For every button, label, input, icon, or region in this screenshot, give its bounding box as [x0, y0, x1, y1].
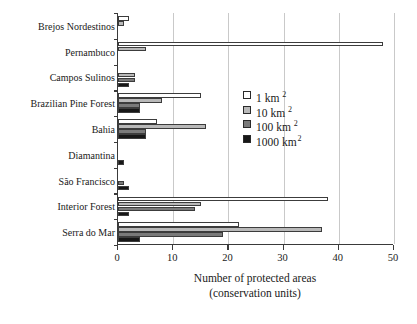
bar-slot: [118, 181, 393, 186]
bar-slot: [118, 150, 393, 155]
y-axis-tick: [114, 65, 118, 66]
bar: [118, 108, 140, 113]
bar-slot: [118, 212, 393, 217]
bar: [118, 134, 146, 139]
bar-slot: [118, 52, 393, 57]
x-axis-title-line1: Number of protected areas: [117, 271, 393, 286]
bar-slot: [118, 31, 393, 36]
bar: [118, 160, 124, 165]
bar-slot: [118, 57, 393, 62]
x-axis-tick-label: 40: [333, 252, 344, 264]
y-axis-label: Bahia: [92, 124, 115, 135]
bar-group: [118, 16, 393, 36]
bar: [118, 237, 140, 242]
bar: [118, 93, 201, 98]
x-axis-tick-label: 0: [114, 252, 119, 264]
bar-group: [118, 68, 393, 88]
bar: [118, 212, 129, 217]
y-axis-tick: [114, 168, 118, 169]
bar-slot: [118, 232, 393, 237]
y-axis-tick: [114, 219, 118, 220]
bar: [118, 21, 124, 26]
bar: [118, 232, 223, 237]
bar: [118, 124, 206, 129]
y-axis-label: Brejos Nordestinos: [38, 20, 115, 31]
y-axis-label: Diamantina: [68, 149, 115, 160]
x-axis-tick-label: 30: [277, 252, 288, 264]
x-axis-tick-label: 20: [222, 252, 233, 264]
y-axis-tick: [114, 193, 118, 194]
legend-label: 1000 km2: [256, 132, 302, 149]
y-axis-label: São Francisco: [59, 175, 115, 186]
bar-slot: [118, 237, 393, 242]
x-axis-tick: [227, 245, 228, 250]
bar: [118, 83, 129, 88]
y-axis-label: Serra do Mar: [62, 227, 115, 238]
bar-slot: [118, 202, 393, 207]
y-axis-tick: [114, 142, 118, 143]
bar-group: [118, 42, 393, 62]
x-axis-tick: [172, 245, 173, 250]
bar: [118, 98, 162, 103]
bar: [118, 16, 129, 21]
y-axis-label: Campos Sulinos: [50, 72, 115, 83]
bar: [118, 78, 135, 83]
x-axis-title-line2: (conservation units): [117, 286, 393, 301]
bar: [118, 222, 239, 227]
y-axis-tick: [114, 90, 118, 91]
bar: [118, 42, 383, 47]
legend-swatch: [243, 91, 251, 99]
bar: [118, 202, 201, 207]
y-axis-tick: [114, 116, 118, 117]
legend-swatch: [243, 135, 251, 143]
bar-slot: [118, 197, 393, 202]
bar: [118, 103, 140, 108]
x-axis-tick-label: 10: [167, 252, 178, 264]
bar: [118, 73, 135, 78]
bar: [118, 207, 195, 212]
legend-swatch: [243, 106, 251, 114]
bar-slot: [118, 160, 393, 165]
bar-slot: [118, 47, 393, 52]
bar-slot: [118, 207, 393, 212]
bar-slot: [118, 42, 393, 47]
bar-group: [118, 222, 393, 242]
bar-slot: [118, 176, 393, 181]
bar-slot: [118, 83, 393, 88]
bar-slot: [118, 186, 393, 191]
bar: [118, 119, 157, 124]
legend-item: 100 km2: [243, 117, 358, 132]
bar-chart-figure: Brejos NordestinosPernambucoCampos Sulin…: [0, 0, 417, 324]
x-axis-tick: [338, 245, 339, 250]
bar: [118, 197, 328, 202]
bar-slot: [118, 155, 393, 160]
x-axis: 01020304050: [117, 245, 393, 267]
bar-slot: [118, 222, 393, 227]
legend-swatch: [243, 120, 251, 128]
bar: [118, 181, 124, 186]
bar-slot: [118, 26, 393, 31]
bar-slot: [118, 73, 393, 78]
x-axis-tick: [393, 245, 394, 250]
x-axis-title: Number of protected areas (conservation …: [117, 271, 393, 301]
x-axis-tick-label: 50: [388, 252, 399, 264]
bar-slot: [118, 171, 393, 176]
y-axis-label: Interior Forest: [58, 201, 116, 212]
bar-slot: [118, 227, 393, 232]
bar: [118, 227, 322, 232]
gridline: [394, 13, 395, 244]
legend: 1 km210 km2100 km21000 km2: [243, 88, 358, 146]
bar: [118, 129, 146, 134]
bar-slot: [118, 68, 393, 73]
legend-item: 10 km2: [243, 103, 358, 118]
bar: [118, 47, 146, 52]
y-axis-tick: [114, 39, 118, 40]
y-axis-label: Brazilian Pine Forest: [31, 98, 115, 109]
legend-item: 1 km2: [243, 88, 358, 103]
legend-item: 1000 km2: [243, 132, 358, 147]
bar-slot: [118, 78, 393, 83]
bar-slot: [118, 21, 393, 26]
bar-slot: [118, 16, 393, 21]
y-axis-tick: [114, 13, 118, 14]
bar-group: [118, 197, 393, 217]
